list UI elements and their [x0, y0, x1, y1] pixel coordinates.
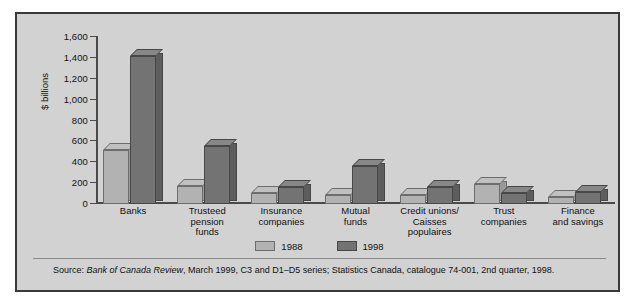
bar-1998: [501, 193, 527, 204]
bar-face: [103, 150, 129, 204]
y-tick-label: 1,600: [64, 31, 88, 42]
bar-side: [156, 53, 163, 201]
legend-label: 1988: [281, 241, 302, 252]
bar-side: [378, 163, 385, 201]
source-note: Source: Bank of Canada Review, March 199…: [53, 264, 598, 276]
bar-face: [325, 195, 351, 204]
bar-face: [278, 187, 304, 204]
category-label: Trusteed pension funds: [170, 206, 244, 238]
bar-group: [541, 36, 615, 204]
legend-swatch: [337, 241, 357, 251]
bar-face: [177, 186, 203, 204]
legend-swatch: [255, 241, 275, 251]
bar-face: [474, 184, 500, 204]
bar-group: [318, 36, 392, 204]
divider: [33, 258, 606, 259]
category-label: Trust companies: [467, 206, 541, 227]
bar-1998: [130, 56, 156, 204]
category-label: Credit unions/ Caisses populaires: [393, 206, 467, 238]
category-label: Insurance companies: [244, 206, 318, 227]
bar-side: [304, 184, 311, 201]
bar-1998: [204, 146, 230, 204]
bar-face: [251, 193, 277, 204]
bar-face: [204, 146, 230, 204]
bar-1988: [177, 186, 203, 204]
bar-1988: [103, 150, 129, 204]
y-tick-label: 1,000: [64, 93, 88, 104]
bar-face: [501, 193, 527, 204]
bar-face: [575, 192, 601, 204]
bar-group: [96, 36, 170, 204]
y-axis-title: $ billions: [39, 73, 50, 110]
bar-1988: [474, 184, 500, 204]
bar-side: [230, 143, 237, 201]
chart-frame: $ billions 02004006008001,0001,2001,4001…: [15, 12, 620, 292]
bar-1988: [548, 197, 574, 204]
legend-item: 1988: [255, 241, 302, 252]
y-tick-label: 200: [72, 177, 88, 188]
bar-1998: [427, 187, 453, 204]
bar-side: [453, 184, 460, 201]
y-tick-label: 800: [72, 114, 88, 125]
bar-1998: [278, 187, 304, 204]
bar-face: [130, 56, 156, 204]
bar-1998: [352, 166, 378, 204]
bar-face: [427, 187, 453, 204]
y-tick-label: 0: [83, 198, 88, 209]
bar-1988: [325, 195, 351, 204]
bar-group: [170, 36, 244, 204]
legend-label: 1998: [363, 241, 384, 252]
plot-area: $ billions 02004006008001,0001,2001,4001…: [17, 14, 622, 236]
bar-1988: [400, 195, 426, 204]
y-tick-label: 1,200: [64, 72, 88, 83]
category-label: Mutual funds: [318, 206, 392, 227]
bar-face: [352, 166, 378, 204]
y-tick-label: 600: [72, 135, 88, 146]
chart-legend: 19881998: [17, 238, 622, 254]
bar-1988: [251, 193, 277, 204]
bar-group: [467, 36, 541, 204]
y-tick-label: 1,400: [64, 51, 88, 62]
source-publication: Bank of Canada Review: [87, 265, 184, 275]
bar-group: [244, 36, 318, 204]
category-label: Finance and savings: [541, 206, 615, 227]
y-tick-label: 400: [72, 156, 88, 167]
legend-item: 1998: [337, 241, 384, 252]
source-prefix: Source:: [53, 265, 87, 275]
bar-group: [393, 36, 467, 204]
bar-1998: [575, 192, 601, 204]
bars-container: [96, 36, 615, 204]
bar-face: [400, 195, 426, 204]
category-label: Banks: [96, 206, 170, 217]
bar-face: [548, 197, 574, 204]
source-rest: , March 1999, C3 and D1–D5 series; Stati…: [183, 265, 554, 275]
